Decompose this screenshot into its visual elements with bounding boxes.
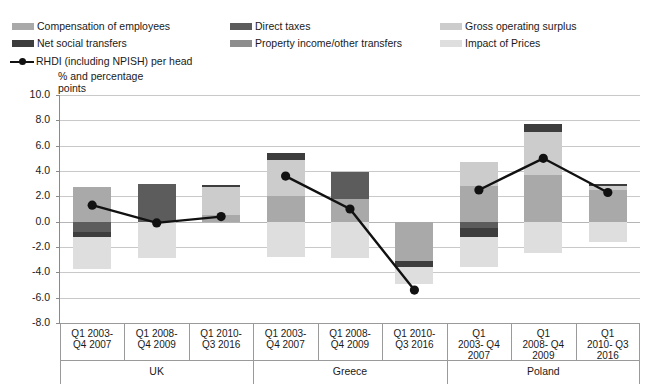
category-label: Q1 2008- Q4 2009 <box>318 324 382 360</box>
legend-swatch-net-social-transfers <box>12 40 34 47</box>
category-label: Q1 2003- Q4 2007 <box>253 324 317 360</box>
y-axis-tick-label: -4.0 <box>8 266 50 277</box>
bar-stack <box>138 95 176 323</box>
bar-stack <box>202 95 240 323</box>
y-axis-tick-label: 8.0 <box>8 114 50 125</box>
y-axis-title: % and percentage points <box>58 70 143 94</box>
bar-segment <box>589 186 627 190</box>
legend-swatch-impact-of-prices <box>440 40 462 47</box>
bar-segment <box>267 196 305 221</box>
legend-swatch-property-income-other-transfers <box>230 40 252 47</box>
legend-label-gross-operating-surplus: Gross operating surplus <box>465 21 576 32</box>
category-separator <box>511 324 512 360</box>
bar-segment <box>460 228 498 237</box>
category-label: Q1 2008- Q4 2009 <box>511 324 575 360</box>
legend-label-rhdi: RHDI (including NPISH) per head <box>36 55 192 67</box>
category-separator <box>189 324 190 360</box>
group-label: Poland <box>447 365 640 377</box>
bar-segment <box>589 184 627 187</box>
legend-item-net-social-transfers: Net social transfers <box>12 38 127 49</box>
category-label: Q1 2003- Q4 2007 <box>60 324 124 360</box>
group-label: Greece <box>253 365 446 377</box>
category-separator <box>124 324 125 360</box>
bar-segment <box>73 237 111 269</box>
bar-segment <box>267 160 305 197</box>
bar-segment <box>395 222 433 261</box>
bar-stack <box>267 95 305 323</box>
category-group-divider <box>60 360 640 361</box>
group-label: UK <box>60 365 253 377</box>
bar-segment <box>589 222 627 242</box>
y-axis-tick-label: -8.0 <box>8 317 50 328</box>
legend-item-gross-operating-surplus: Gross operating surplus <box>440 21 576 32</box>
bar-segment <box>524 124 562 132</box>
bar-segment <box>331 172 369 199</box>
y-axis-tick-label: 2.0 <box>8 190 50 201</box>
category-separator <box>318 324 319 360</box>
bar-segment <box>138 184 176 222</box>
bar-stack <box>460 95 498 323</box>
y-axis-tick-label: 0.0 <box>8 216 50 227</box>
legend-label-direct-taxes: Direct taxes <box>255 21 310 32</box>
y-axis-tick-label: -6.0 <box>8 292 50 303</box>
y-axis-tick-label: 4.0 <box>8 165 50 176</box>
bar-segment <box>524 222 562 254</box>
chart-legend: Compensation of employees Direct taxes G… <box>0 0 652 90</box>
legend-label-property-income-other-transfers: Property income/other transfers <box>255 38 402 49</box>
category-label: Q1 2010- Q3 2016 <box>189 324 253 360</box>
bar-segment <box>202 215 240 221</box>
category-separator <box>576 324 577 360</box>
plot-area <box>60 95 640 323</box>
legend-swatch-direct-taxes <box>230 23 252 30</box>
bar-stack <box>524 95 562 323</box>
legend-swatch-gross-operating-surplus <box>440 23 462 30</box>
bar-stack <box>589 95 627 323</box>
bar-segment <box>524 175 562 222</box>
legend-item-direct-taxes: Direct taxes <box>230 21 310 32</box>
y-axis-tick-label: -2.0 <box>8 241 50 252</box>
legend-item-rhdi-line: RHDI (including NPISH) per head <box>10 55 192 67</box>
y-axis-line <box>59 95 60 323</box>
category-label: Q1 2010- Q3 2016 <box>382 324 446 360</box>
legend-item-impact-of-prices: Impact of Prices <box>440 38 540 49</box>
bar-segment <box>524 132 562 175</box>
bar-stack <box>73 95 111 323</box>
bar-segment <box>331 199 369 222</box>
bar-segment <box>460 237 498 267</box>
y-axis-tick-label: 10.0 <box>8 89 50 100</box>
legend-label-net-social-transfers: Net social transfers <box>37 38 127 49</box>
legend-label-compensation-of-employees: Compensation of employees <box>37 21 170 32</box>
bar-segment <box>73 187 111 221</box>
bar-segment <box>267 153 305 159</box>
bar-segment <box>138 222 176 259</box>
category-label: Q1 2008- Q4 2009 <box>124 324 188 360</box>
bar-segment <box>202 185 240 188</box>
bar-segment <box>202 187 240 215</box>
category-label: Q1 2010- Q3 2016 <box>576 324 640 360</box>
legend-item-compensation-of-employees: Compensation of employees <box>12 21 170 32</box>
bar-segment <box>267 222 305 257</box>
bar-segment <box>73 222 111 232</box>
legend-label-impact-of-prices: Impact of Prices <box>465 38 540 49</box>
bar-segment <box>395 267 433 283</box>
bar-segment <box>460 186 498 221</box>
category-axis: Q1 2003- Q4 2007Q1 2008- Q4 2009Q1 2010-… <box>60 323 640 389</box>
category-separator <box>382 324 383 360</box>
bar-stack <box>395 95 433 323</box>
bar-segment <box>589 190 627 222</box>
y-axis-tick-label: 6.0 <box>8 140 50 151</box>
bar-segment <box>331 222 369 259</box>
bar-stack <box>331 95 369 323</box>
legend-item-property-income-other-transfers: Property income/other transfers <box>230 38 402 49</box>
legend-swatch-compensation-of-employees <box>12 23 34 30</box>
legend-swatch-line-marker-icon <box>10 56 34 66</box>
category-label: Q1 2003- Q4 2007 <box>447 324 511 360</box>
bar-segment <box>460 162 498 186</box>
